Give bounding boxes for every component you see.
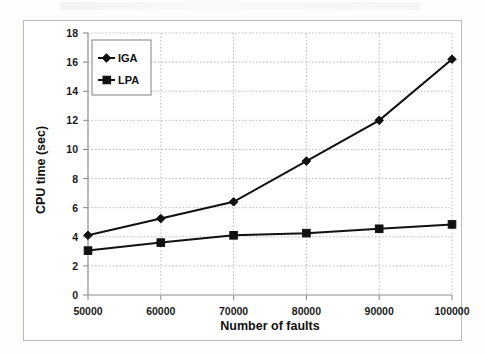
- y-tick-label: 14: [66, 85, 78, 97]
- legend-box: [92, 40, 151, 95]
- x-tick-label: 60000: [146, 305, 175, 317]
- y-tick-label: 18: [66, 27, 78, 39]
- y-axis-title: CPU time (sec): [34, 126, 48, 214]
- data-point-iga: [229, 198, 238, 207]
- y-tick-label: 16: [66, 56, 78, 68]
- chart-legend: IGALPA: [92, 40, 151, 95]
- y-tick-label: 12: [66, 114, 78, 126]
- y-tick-label: 6: [72, 202, 78, 214]
- data-point-iga: [84, 231, 93, 240]
- y-tick-labels: 024681012141618: [66, 27, 78, 301]
- x-tick-label: 90000: [365, 305, 394, 317]
- y-tick-label: 10: [66, 143, 78, 155]
- line-chart: 024681012141618 500006000070000800009000…: [0, 0, 485, 354]
- x-tick-label: 80000: [292, 305, 321, 317]
- data-point-lpa: [84, 247, 92, 255]
- x-tick-labels: 5000060000700008000090000100000: [73, 305, 469, 317]
- y-tick-label: 2: [72, 260, 78, 272]
- x-tick-label: 50000: [73, 305, 102, 317]
- data-point-lpa: [375, 225, 383, 233]
- legend-label-lpa: LPA: [118, 74, 139, 86]
- legend-label-iga: IGA: [118, 52, 138, 64]
- x-axis-title: Number of faults: [220, 319, 319, 333]
- data-point-lpa: [157, 239, 165, 247]
- legend-marker-lpa: [103, 76, 111, 84]
- series-line-lpa: [88, 224, 452, 250]
- data-point-lpa: [230, 232, 238, 240]
- data-point-lpa: [303, 229, 311, 237]
- x-tick-label: 100000: [434, 305, 469, 317]
- y-tick-label: 8: [72, 173, 78, 185]
- y-tick-label: 0: [72, 289, 78, 301]
- data-point-iga: [302, 157, 311, 166]
- x-tick-label: 70000: [219, 305, 248, 317]
- data-point-lpa: [448, 221, 456, 229]
- chart-svg: 024681012141618 500006000070000800009000…: [0, 0, 485, 354]
- y-tick-label: 4: [72, 231, 78, 243]
- data-point-iga: [157, 214, 166, 223]
